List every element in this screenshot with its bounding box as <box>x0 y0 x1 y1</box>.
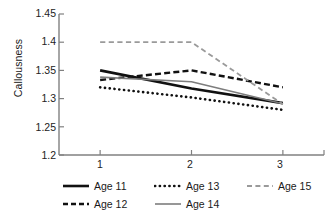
line-chart-figure: Callousness 1.2 1.25 1.3 1.35 1.4 1.45 1… <box>0 0 334 216</box>
legend-item-age-12[interactable]: Age 12 <box>62 196 154 212</box>
line-dashed-black-icon <box>62 198 90 210</box>
line-dotted-black-icon <box>154 180 182 192</box>
legend-row: Age 12 Age 14 <box>62 196 324 212</box>
legend-label: Age 14 <box>186 198 219 210</box>
legend-item-age-13[interactable]: Age 13 <box>154 178 246 194</box>
legend-row: Age 11 Age 13 Age 15 <box>62 178 324 194</box>
series-lines <box>100 42 283 110</box>
chart-legend: Age 11 Age 13 Age 15 Age 12 <box>62 178 324 214</box>
legend-item-age-14[interactable]: Age 14 <box>154 196 246 212</box>
legend-label: Age 15 <box>278 180 311 192</box>
plot-area <box>0 0 334 170</box>
line-dashed-gray-icon <box>246 180 274 192</box>
legend-item-age-15[interactable]: Age 15 <box>246 178 324 194</box>
legend-label: Age 12 <box>94 198 127 210</box>
legend-label: Age 13 <box>186 180 219 192</box>
line-solid-gray-icon <box>154 198 182 210</box>
series-line-age-15 <box>100 42 283 104</box>
line-solid-black-thick-icon <box>62 180 90 192</box>
axes <box>59 14 324 155</box>
legend-item-age-11[interactable]: Age 11 <box>62 178 154 194</box>
legend-label: Age 11 <box>94 180 127 192</box>
